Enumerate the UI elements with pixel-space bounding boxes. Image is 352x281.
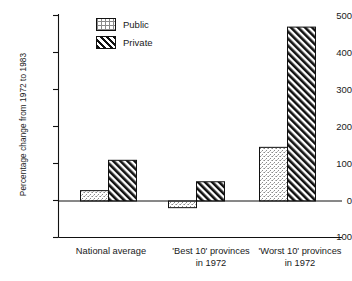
legend-item-private: Private	[96, 36, 153, 49]
legend-label-public: Public	[123, 20, 149, 30]
y-tick-marks	[53, 16, 59, 238]
legend-swatch-public	[96, 18, 116, 31]
bars-layer	[81, 27, 316, 208]
x-category-label-worst-10: 'Worst 10' provinces in 1972	[248, 246, 352, 269]
bar-chart: Percentage change from 1972 to 1983 500 …	[0, 0, 352, 281]
bar-public-group-3	[260, 147, 288, 201]
legend-label-private: Private	[123, 38, 153, 48]
bar-public-group-2	[169, 201, 197, 208]
bar-private-group-3	[288, 27, 316, 201]
plot-area	[0, 0, 352, 281]
bar-private-group-2	[197, 182, 225, 201]
bar-private-group-1	[109, 160, 137, 201]
bar-public-group-1	[81, 191, 109, 201]
legend: Public Private	[96, 18, 153, 54]
x-category-label-national-average: National average	[56, 246, 166, 258]
legend-swatch-private	[96, 36, 116, 49]
legend-item-public: Public	[96, 18, 153, 31]
